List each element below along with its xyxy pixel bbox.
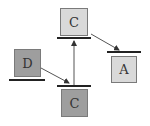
block-d: D [14,49,41,77]
c-bottom-bar [57,85,91,87]
a-bar [107,51,141,53]
block-c-bottom: C [61,89,88,117]
d-bar [9,79,45,81]
block-a: A [111,56,137,83]
block-c-top: C [60,8,88,36]
block-a-label: A [119,62,128,77]
block-c-bottom-label: C [70,96,80,111]
arrow-c-top-to-a [91,34,119,50]
arrow-d-to-c-bottom [41,68,69,83]
block-c-top-label: C [69,15,79,30]
c-top-bar [57,37,91,39]
block-d-label: D [22,56,32,71]
